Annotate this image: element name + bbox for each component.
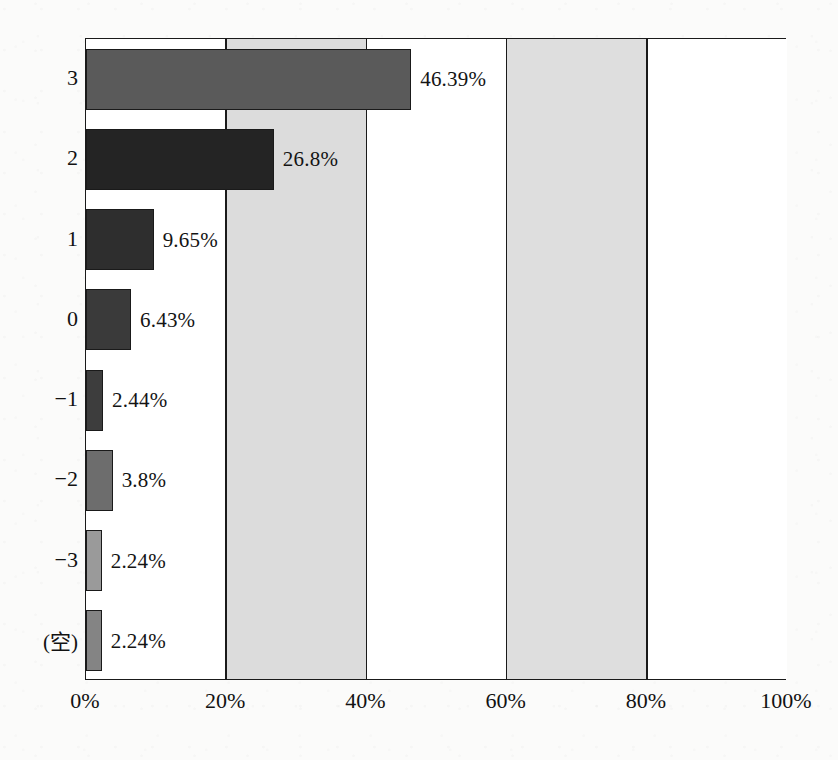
page-background: 46.39%26.8%9.65%6.43%2.44%3.8%2.24%2.24%… (0, 0, 838, 760)
bar-row: 6.43% (86, 280, 785, 360)
x-axis-tick-label: 100% (760, 688, 811, 714)
y-axis-tick-label: −3 (8, 547, 78, 573)
bar[interactable] (86, 530, 102, 591)
bar[interactable] (86, 129, 274, 190)
x-axis-tick-label: 0% (70, 688, 99, 714)
plot-area: 46.39%26.8%9.65%6.43%2.44%3.8%2.24%2.24% (85, 38, 786, 680)
bar-value-label: 26.8% (283, 147, 338, 172)
x-axis-tick-label: 40% (345, 688, 385, 714)
y-axis-tick-label: 3 (8, 65, 78, 91)
bar-row: 26.8% (86, 119, 785, 199)
bar[interactable] (86, 370, 103, 431)
bar-value-label: 2.24% (111, 628, 166, 653)
bar[interactable] (86, 610, 102, 671)
bar[interactable] (86, 289, 131, 350)
bar-row: 9.65% (86, 200, 785, 280)
y-axis-tick-label: 2 (8, 145, 78, 171)
bar-row: 2.44% (86, 360, 785, 440)
y-axis-tick-label: 1 (8, 226, 78, 252)
y-axis-tick-label: 0 (8, 306, 78, 332)
bar-value-label: 46.39% (420, 67, 486, 92)
bar-value-label: 2.24% (111, 548, 166, 573)
x-axis-tick-labels: 0%20%40%60%80%100% (0, 688, 838, 728)
y-axis-tick-label: −2 (8, 466, 78, 492)
bar-value-label: 2.44% (112, 388, 167, 413)
horizontal-bar-chart: 46.39%26.8%9.65%6.43%2.44%3.8%2.24%2.24%… (0, 0, 838, 760)
bar-rows: 46.39%26.8%9.65%6.43%2.44%3.8%2.24%2.24% (86, 39, 785, 679)
bar-row: 2.24% (86, 601, 785, 681)
bar-value-label: 3.8% (122, 468, 167, 493)
bar[interactable] (86, 209, 154, 270)
bar-row: 3.8% (86, 440, 785, 520)
y-axis-tick-labels: 3210−1−2−3(空) (0, 38, 78, 680)
bar[interactable] (86, 450, 113, 511)
y-axis-tick-label: (空) (8, 625, 78, 655)
x-axis-tick-label: 60% (485, 688, 525, 714)
x-axis-tick-label: 20% (205, 688, 245, 714)
y-axis-tick-label: −1 (8, 386, 78, 412)
bar[interactable] (86, 49, 411, 110)
bar-row: 2.24% (86, 521, 785, 601)
bar-row: 46.39% (86, 39, 785, 119)
x-axis-tick-label: 80% (626, 688, 666, 714)
bar-value-label: 6.43% (140, 307, 195, 332)
bar-value-label: 9.65% (163, 227, 218, 252)
